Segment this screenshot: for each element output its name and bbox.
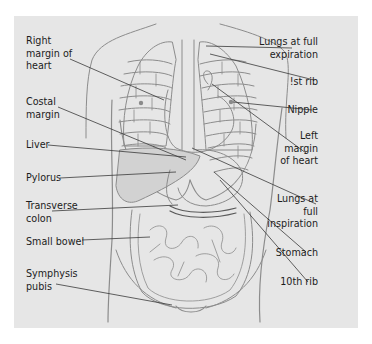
- label-nipple: Nipple: [287, 104, 318, 117]
- label-transverse-colon: Transverse colon: [26, 200, 78, 225]
- small-bowel-loops: [150, 226, 236, 282]
- label-pylorus: Pylorus: [26, 172, 61, 185]
- label-left-margin-of-heart: Left margin of heart: [280, 130, 318, 168]
- label-small-bowel: Small bowel: [26, 236, 84, 249]
- right-nipple-dot: [139, 101, 143, 105]
- symphysis: [176, 306, 206, 312]
- ascending-colon: [130, 210, 253, 308]
- sternum: [182, 40, 194, 150]
- right-flank-outline: [108, 100, 113, 322]
- leader-right-margin-of-heart: [70, 59, 164, 100]
- label-tenth-rib: 10th rib: [280, 276, 318, 289]
- label-liver: Liver: [26, 139, 50, 152]
- transverse-colon: [170, 206, 236, 212]
- label-lungs-full-inspiration: Lungs at full inspiration: [267, 193, 318, 231]
- label-costal-margin: Costal margin: [26, 96, 60, 121]
- label-symphysis-pubis: Symphysis pubis: [26, 268, 78, 293]
- label-right-margin-of-heart: Right margin of heart: [26, 35, 72, 73]
- label-stomach: Stomach: [276, 247, 318, 260]
- pelvic-brim-right: [116, 250, 176, 308]
- label-first-rib: !st rib: [290, 76, 318, 89]
- liver-outline: [116, 148, 200, 202]
- label-lungs-full-expiration: Lungs at full expiration: [259, 36, 318, 61]
- pelvic-brim-left: [206, 250, 266, 308]
- left-nipple-dot: [229, 100, 233, 104]
- leader-small-bowel: [82, 237, 150, 240]
